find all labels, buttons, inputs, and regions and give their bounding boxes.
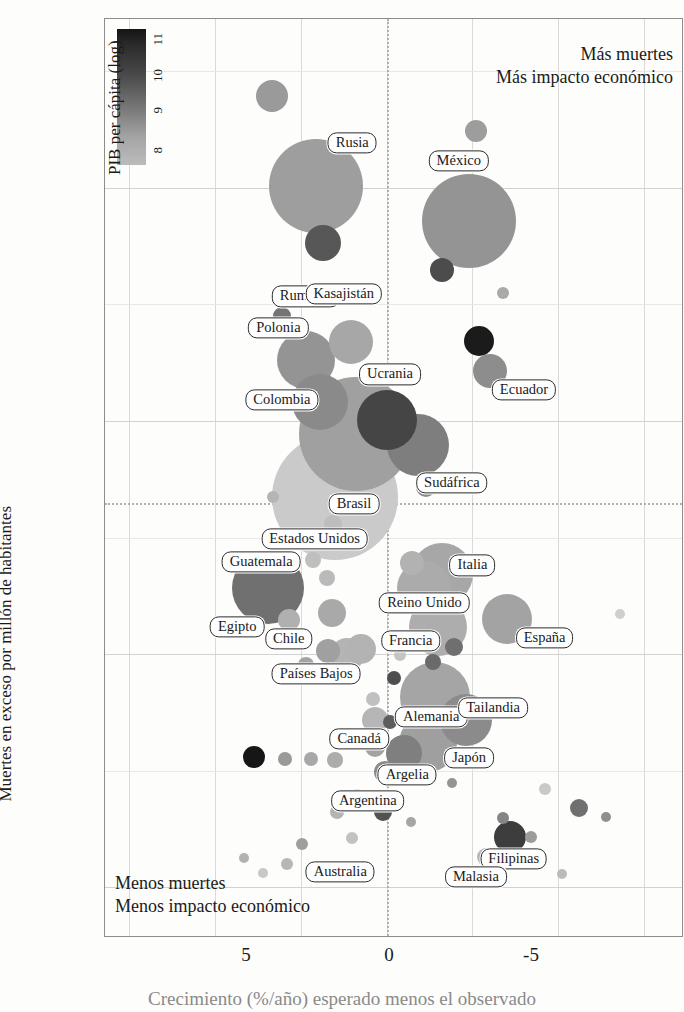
grid-line-vertical — [644, 19, 645, 936]
point-label: Sudáfrica — [416, 472, 488, 493]
point-label: Ecuador — [492, 379, 556, 400]
data-point[interactable] — [497, 812, 509, 824]
point-label: Argentina — [331, 790, 405, 811]
point-label: Colombia — [245, 389, 318, 410]
grid-line-horizontal — [105, 304, 682, 305]
data-point[interactable] — [305, 225, 341, 261]
data-point[interactable] — [305, 552, 321, 568]
data-point[interactable] — [316, 639, 340, 663]
point-label: Guatemala — [222, 551, 301, 572]
point-label: Chile — [265, 628, 312, 649]
data-point[interactable] — [357, 390, 417, 450]
data-point[interactable] — [318, 599, 346, 627]
plot-area: RusiaRumaniaMéxicoEcuadorKasajistánPolon… — [104, 18, 683, 937]
point-label: Japón — [444, 747, 494, 768]
point-label: Reino Unido — [379, 592, 470, 613]
data-point[interactable] — [296, 838, 308, 850]
colorbar-tick-label: 11 — [150, 33, 166, 46]
data-point[interactable] — [346, 634, 376, 664]
data-point[interactable] — [346, 832, 358, 844]
point-label: Canadá — [329, 728, 388, 749]
point-label: Rusia — [328, 132, 377, 153]
annotation-top-right: Más muertes Más impacto económico — [496, 43, 673, 89]
annotation-more-deaths: Más muertes — [496, 43, 673, 66]
colorbar-tick-label: 8 — [150, 147, 166, 154]
x-tick-label: 5 — [241, 944, 251, 966]
x-tick-label: 0 — [384, 944, 394, 966]
point-label: Malasia — [445, 866, 507, 887]
data-point[interactable] — [422, 174, 516, 268]
data-point[interactable] — [327, 752, 343, 768]
annotation-less-economic-impact: Menos impacto económico — [115, 895, 310, 918]
grid-line-vertical — [558, 19, 559, 936]
point-label: España — [516, 627, 574, 648]
data-point[interactable] — [497, 287, 509, 299]
colorbar-tick-label: 10 — [150, 69, 166, 82]
point-label: Estados Unidos — [261, 528, 368, 549]
point-label: Argelia — [378, 765, 437, 786]
data-point[interactable] — [267, 491, 279, 503]
x-axis-label: Crecimiento (%/año) esperado menos el ob… — [148, 988, 536, 1010]
point-label: Italia — [450, 555, 496, 576]
y-axis-label: Muertes en exceso por millón de habitant… — [0, 506, 16, 802]
point-label: Tailandia — [458, 697, 528, 718]
data-point[interactable] — [615, 609, 625, 619]
colorbar-tick-label: 9 — [150, 107, 166, 114]
data-point[interactable] — [525, 831, 537, 843]
annotation-fewer-deaths: Menos muertes — [115, 872, 310, 895]
data-point[interactable] — [406, 817, 416, 827]
data-point[interactable] — [465, 120, 487, 142]
chart-canvas: Muertes en exceso por millón de habitant… — [0, 0, 684, 1012]
annotation-more-economic-impact: Más impacto económico — [496, 66, 673, 89]
data-point[interactable] — [387, 671, 401, 685]
grid-line-vertical — [215, 19, 216, 936]
data-point[interactable] — [304, 752, 318, 766]
data-point[interactable] — [256, 80, 288, 112]
x-tick-label: -5 — [523, 944, 539, 966]
data-point[interactable] — [400, 551, 424, 575]
colorbar-title: PIB per cápita (log) — [105, 40, 125, 175]
data-point[interactable] — [539, 783, 551, 795]
data-point[interactable] — [464, 326, 494, 356]
data-point[interactable] — [445, 638, 463, 656]
point-label: Australia — [306, 861, 375, 882]
point-label: Alemania — [395, 706, 467, 727]
point-label: Brasil — [329, 493, 380, 514]
data-point[interactable] — [557, 869, 567, 879]
data-point[interactable] — [239, 853, 249, 863]
data-point[interactable] — [366, 692, 380, 706]
data-point[interactable] — [329, 320, 373, 364]
data-point[interactable] — [601, 812, 611, 822]
data-point[interactable] — [281, 858, 293, 870]
grid-line-horizontal — [105, 538, 682, 539]
point-label: Francia — [381, 631, 440, 652]
data-point[interactable] — [278, 752, 292, 766]
data-point[interactable] — [319, 570, 335, 586]
annotation-bottom-left: Menos muertes Menos impacto económico — [115, 872, 310, 918]
data-point[interactable] — [570, 799, 588, 817]
point-label: Ucrania — [359, 364, 421, 385]
point-label: México — [429, 151, 489, 172]
data-point[interactable] — [430, 258, 454, 282]
point-label: Polonia — [248, 317, 308, 338]
colorbar-legend: 8 9 10 11 PIB per cápita (log) — [117, 29, 203, 209]
data-point[interactable] — [447, 778, 457, 788]
point-label: Países Bajos — [272, 663, 361, 684]
data-point[interactable] — [243, 746, 265, 768]
point-label: Kasajistán — [305, 283, 381, 304]
point-label: Egipto — [210, 617, 265, 638]
data-point[interactable] — [425, 654, 441, 670]
